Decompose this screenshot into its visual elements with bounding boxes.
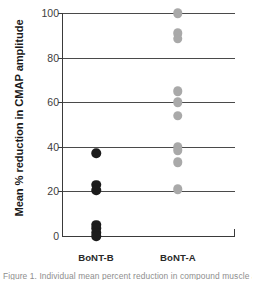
data-point [91, 231, 101, 241]
figure-caption: Figure 1. Individual mean percent reduct… [3, 271, 252, 280]
x-axis-tick-label: BoNT-B [51, 252, 141, 263]
data-point [173, 8, 183, 18]
gridline [63, 13, 235, 14]
data-point [173, 34, 183, 44]
plot-area [63, 13, 235, 236]
gridline [63, 102, 235, 103]
data-point [173, 158, 183, 168]
data-point [91, 186, 101, 196]
data-point [173, 184, 183, 194]
gridline [63, 191, 235, 192]
x-axis-tick-label: BoNT-A [133, 252, 223, 263]
gridline [63, 58, 235, 59]
data-point [91, 149, 101, 159]
y-axis-tick-label: 20 [19, 186, 59, 197]
y-axis-title: Mean % reduction in CMAP amplitude [13, 3, 25, 233]
y-axis-tick-label: 80 [19, 53, 59, 64]
data-point [173, 145, 183, 155]
y-axis-tick-label: 60 [19, 97, 59, 108]
data-point [173, 86, 183, 96]
data-point [173, 97, 183, 107]
figure-container: Mean % reduction in CMAP amplitude 02040… [0, 0, 255, 281]
y-axis-tick-label: 100 [19, 8, 59, 19]
y-axis-tick-label: 40 [19, 142, 59, 153]
gridline [63, 147, 235, 148]
data-point [173, 111, 183, 121]
y-axis-tick-label: 0 [19, 231, 59, 242]
